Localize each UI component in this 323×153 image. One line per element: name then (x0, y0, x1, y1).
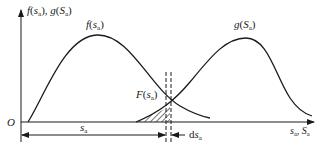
strength-curve-label: g(Sa) (234, 18, 256, 32)
strength-density-curve (136, 38, 312, 122)
failure-area-label: F(sa) (135, 88, 158, 102)
stress-strength-interference-diagram: f(sa), g(Sa) f(sa) g(Sa) F(sa) O sa, Sa … (0, 0, 323, 153)
dsa-dimension-label: dsa (189, 128, 203, 142)
origin-label: O (7, 116, 15, 128)
y-axis-label: f(sa), g(Sa) (27, 4, 72, 18)
stress-density-curve (28, 35, 210, 122)
diagram-svg: f(sa), g(Sa) f(sa) g(Sa) F(sa) O sa, Sa … (0, 0, 323, 153)
stress-curve-label: f(sa) (86, 18, 104, 32)
x-axis-label: sa, Sa (290, 125, 310, 137)
sa-dimension-label: sa (80, 121, 88, 135)
